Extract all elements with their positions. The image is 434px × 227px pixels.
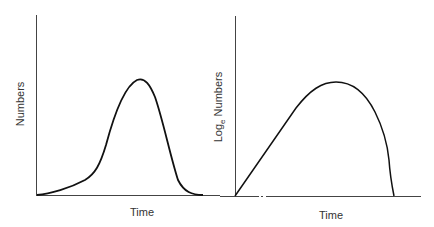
right-chart: Time Loge Numbers: [212, 16, 421, 221]
left-y-label: Numbers: [14, 81, 26, 126]
growth-curves-diagram: Time Numbers Time Loge Numbers: [0, 0, 434, 227]
right-x-label: Time: [319, 209, 343, 221]
left-chart: Time Numbers: [14, 15, 220, 218]
right-y-label: Loge Numbers: [212, 71, 227, 142]
left-curve: [37, 79, 203, 195]
figure: Time Numbers Time Loge Numbers: [0, 0, 434, 227]
right-curve: [235, 82, 394, 196]
left-x-label: Time: [130, 206, 154, 218]
